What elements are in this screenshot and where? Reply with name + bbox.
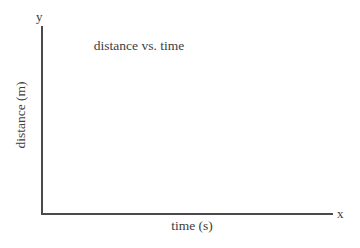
x-axis-letter: x bbox=[337, 207, 344, 220]
graph-figure: y x distance vs. time time (s) distance … bbox=[0, 0, 360, 248]
plot-area bbox=[43, 26, 333, 213]
x-axis-line bbox=[41, 213, 333, 215]
y-axis-letter: y bbox=[36, 10, 43, 23]
x-axis-label: time (s) bbox=[102, 219, 282, 233]
chart-title: distance vs. time bbox=[0, 39, 278, 53]
y-axis-label: distance (m) bbox=[14, 81, 28, 148]
